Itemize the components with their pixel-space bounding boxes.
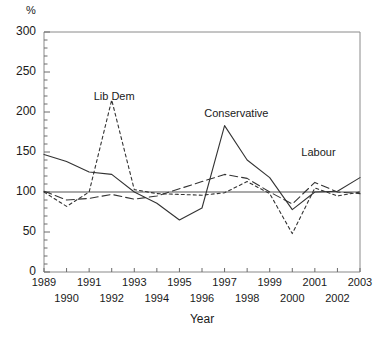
y-tick-label: 100 bbox=[2, 184, 36, 198]
y-tick-label: 200 bbox=[2, 104, 36, 118]
x-tick-label: 1997 bbox=[205, 276, 245, 288]
x-tick-label: 1994 bbox=[137, 292, 177, 304]
y-tick-label: 50 bbox=[2, 224, 36, 238]
x-tick-label: 1999 bbox=[250, 276, 290, 288]
chart-plot-area bbox=[0, 0, 381, 340]
x-tick-label: 1991 bbox=[69, 276, 109, 288]
x-tick-label: 1995 bbox=[159, 276, 199, 288]
y-tick-label: 300 bbox=[2, 24, 36, 38]
x-tick-label: 1996 bbox=[182, 292, 222, 304]
x-axis-title: Year bbox=[162, 312, 242, 326]
series-label-lib-dem: Lib Dem bbox=[94, 90, 135, 102]
x-tick-label: 1998 bbox=[227, 292, 267, 304]
x-tick-label: 1993 bbox=[114, 276, 154, 288]
series-label-labour: Labour bbox=[301, 146, 335, 158]
x-tick-label: 1989 bbox=[24, 276, 64, 288]
chart-container: % 050100150200250300 1989199019911992199… bbox=[0, 0, 381, 340]
x-tick-label: 2002 bbox=[317, 292, 357, 304]
x-tick-label: 1992 bbox=[92, 292, 132, 304]
x-tick-label: 2003 bbox=[340, 276, 380, 288]
x-tick-label: 2000 bbox=[272, 292, 312, 304]
x-tick-label: 1990 bbox=[47, 292, 87, 304]
series-label-conservative: Conservative bbox=[204, 107, 268, 119]
y-tick-label: 250 bbox=[2, 64, 36, 78]
x-tick-label: 2001 bbox=[295, 276, 335, 288]
y-tick-label: 150 bbox=[2, 144, 36, 158]
